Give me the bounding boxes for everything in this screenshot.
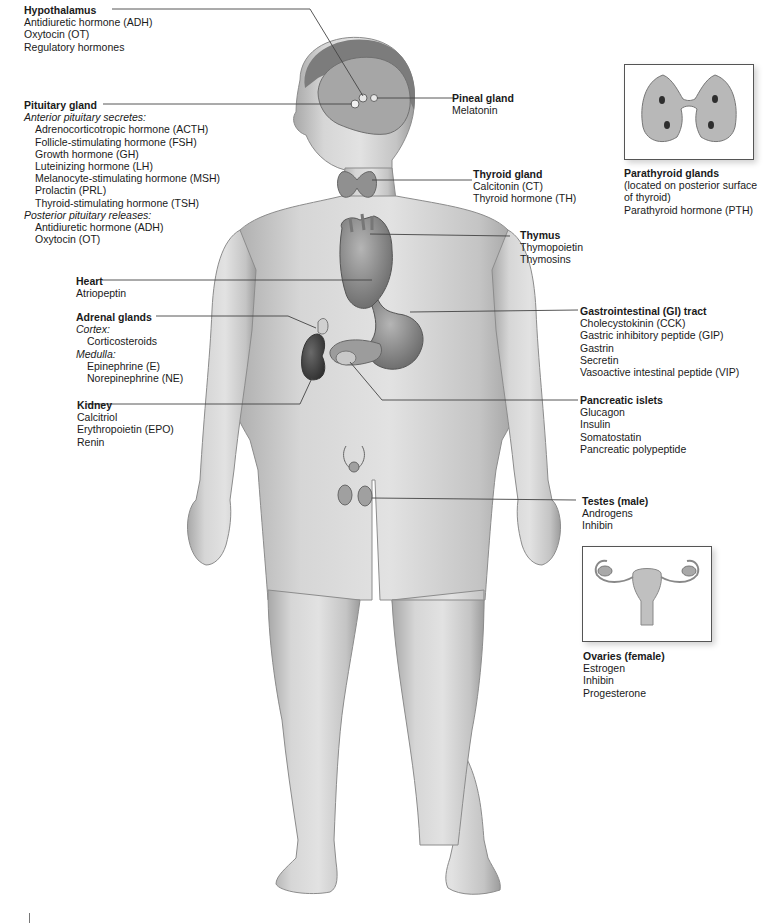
label-gi-tract: Gastrointestinal (GI) tract Cholecystoki… (580, 305, 739, 378)
hormone: Glucagon (580, 406, 686, 418)
human-body (187, 37, 560, 894)
uterus-ovaries-illustration (583, 547, 711, 641)
pituitary-marker (351, 100, 359, 108)
hormone: Luteinizing hormone (LH) (24, 160, 220, 172)
hormone: Vasoactive intestinal peptide (VIP) (580, 366, 739, 378)
hormone: Renin (77, 436, 174, 448)
page-edge-mark (29, 913, 30, 923)
label-heart: Heart Atriopeptin (76, 275, 126, 299)
note: (located on posterior surface (624, 179, 757, 191)
hormone: Inhibin (582, 519, 648, 531)
hormone: Melatonin (452, 104, 514, 116)
hormone: Corticosteroids (76, 335, 183, 347)
gland-title: Adrenal glands (76, 311, 183, 323)
gland-title: Thyroid gland (473, 168, 576, 180)
gland-title: Testes (male) (582, 495, 648, 507)
hormone: Parathyroid hormone (PTH) (624, 204, 757, 216)
hormone: Antidiuretic hormone (ADH) (24, 16, 152, 28)
hormone: Somatostatin (580, 431, 686, 443)
hormone: Growth hormone (GH) (24, 148, 220, 160)
subheading: Posterior pituitary releases: (24, 209, 220, 221)
hormone: Insulin (580, 418, 686, 430)
hormone: Antidiuretic hormone (ADH) (24, 221, 220, 233)
hormone: Gastric inhibitory peptide (GIP) (580, 329, 739, 341)
hormone: Thymosins (520, 253, 583, 265)
hormone: Oxytocin (OT) (24, 233, 220, 245)
hormone: Prolactin (PRL) (24, 184, 220, 196)
ovaries-inset (582, 546, 712, 642)
hormone: Oxytocin (OT) (24, 28, 152, 40)
label-ovaries: Ovaries (female) Estrogen Inhibin Proges… (583, 650, 665, 699)
hormone: Gastrin (580, 342, 739, 354)
subheading: Anterior pituitary secretes: (24, 111, 220, 123)
subheading: Medulla: (76, 348, 183, 360)
hormone: Estrogen (583, 662, 665, 674)
gland-title: Parathyroid glands (624, 167, 757, 179)
adrenal-illustration (318, 319, 328, 334)
gland-title: Ovaries (female) (583, 650, 665, 662)
label-thyroid: Thyroid gland Calcitonin (CT) Thyroid ho… (473, 168, 576, 205)
subheading: Cortex: (76, 323, 183, 335)
label-kidney: Kidney Calcitriol Erythropoietin (EPO) R… (77, 399, 174, 448)
label-pineal: Pineal gland Melatonin (452, 92, 514, 116)
label-testes: Testes (male) Androgens Inhibin (582, 495, 648, 532)
gland-title: Hypothalamus (24, 4, 152, 16)
note: of thyroid) (624, 191, 757, 203)
label-parathyroid: Parathyroid glands (located on posterior… (624, 167, 757, 216)
gland-title: Thymus (520, 229, 583, 241)
gland-title: Kidney (77, 399, 174, 411)
pancreatic-islets-marker (336, 351, 356, 365)
label-hypothalamus: Hypothalamus Antidiuretic hormone (ADH) … (24, 4, 152, 53)
hormone: Thymopoietin (520, 241, 583, 253)
label-thymus: Thymus Thymopoietin Thymosins (520, 229, 583, 266)
hormone: Secretin (580, 354, 739, 366)
gland-title: Heart (76, 275, 126, 287)
gland-title: Pineal gland (452, 92, 514, 104)
label-pancreatic-islets: Pancreatic islets Glucagon Insulin Somat… (580, 394, 686, 455)
hormone: Epinephrine (E) (76, 360, 183, 372)
hormone: Cholecystokinin (CCK) (580, 317, 739, 329)
hormone: Thyroid hormone (TH) (473, 192, 576, 204)
label-pituitary: Pituitary gland Anterior pituitary secre… (24, 99, 220, 245)
hormone: Melanocyte-stimulating hormone (MSH) (24, 172, 220, 184)
hormone: Regulatory hormones (24, 41, 152, 53)
label-adrenal: Adrenal glands Cortex: Corticosteroids M… (76, 311, 183, 384)
pineal-marker (371, 95, 378, 102)
hormone: Calcitonin (CT) (473, 180, 576, 192)
gland-title: Pancreatic islets (580, 394, 686, 406)
hormone: Progesterone (583, 687, 665, 699)
hormone: Erythropoietin (EPO) (77, 423, 174, 435)
hormone: Adrenocorticotropic hormone (ACTH) (24, 123, 220, 135)
hormone: Androgens (582, 507, 648, 519)
hormone: Follicle-stimulating hormone (FSH) (24, 136, 220, 148)
gland-title: Pituitary gland (24, 99, 220, 111)
gland-title: Gastrointestinal (GI) tract (580, 305, 739, 317)
hormone: Inhibin (583, 674, 665, 686)
parathyroid-illustration (625, 65, 753, 159)
hormone: Calcitriol (77, 411, 174, 423)
hormone: Norepinephrine (NE) (76, 372, 183, 384)
parathyroid-inset (624, 64, 754, 160)
hormone: Pancreatic polypeptide (580, 443, 686, 455)
hormone: Thyroid-stimulating hormone (TSH) (24, 197, 220, 209)
hormone: Atriopeptin (76, 287, 126, 299)
